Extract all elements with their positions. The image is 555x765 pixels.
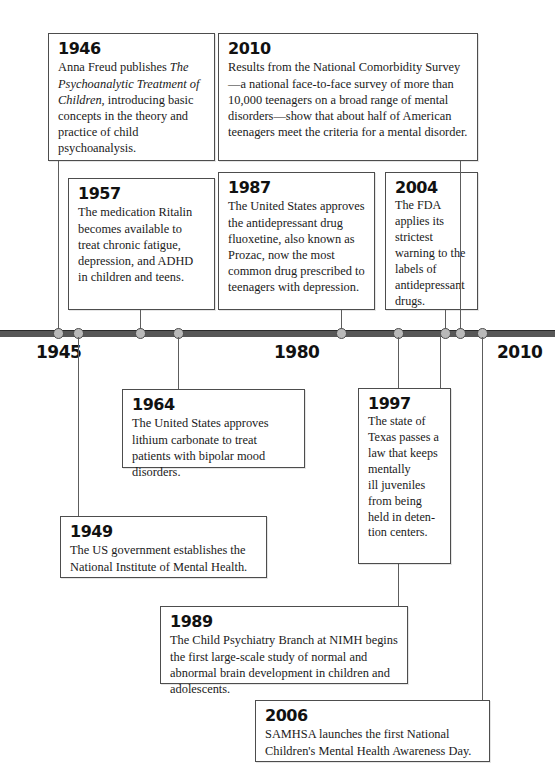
event-text-2004: The FDA applies its strictest warning to… — [395, 198, 468, 309]
event-box-1987[interactable]: 1987 The United States approves the anti… — [218, 172, 375, 310]
timeline-infographic: 1946 Anna Freud publishes The Psychoanal… — [0, 0, 555, 765]
connector-2006 — [482, 337, 483, 700]
event-box-1949[interactable]: 1949 The US government establishes the N… — [60, 516, 267, 578]
event-year-1989: 1989 — [170, 613, 398, 631]
event-year-2006: 2006 — [265, 707, 480, 725]
event-box-1989[interactable]: 1989 The Child Psychiatry Branch at NIMH… — [160, 606, 408, 684]
connector-1946 — [58, 161, 59, 333]
connector-1949 — [78, 337, 79, 516]
axis-year-1945: 1945 — [36, 342, 81, 362]
axis-year-2010: 2010 — [497, 342, 542, 362]
event-year-1949: 1949 — [70, 523, 257, 541]
connector-2010 — [460, 161, 461, 333]
event-text-1987: The United States approves the antidepre… — [228, 198, 365, 295]
event-text-1949: The US government establishes the Nation… — [70, 542, 257, 574]
event-year-1957: 1957 — [78, 185, 205, 203]
event-text-1997: The state ofTexas passes alaw that keeps… — [368, 414, 441, 541]
event-text-1946-part1: Anna Freud publishes — [58, 60, 170, 74]
event-text-1989: The Child Psychiatry Branch at NIMH begi… — [170, 632, 398, 697]
event-text-2010: Results from the National Comorbidity Su… — [228, 59, 468, 140]
event-year-1946: 1946 — [58, 40, 205, 58]
event-year-1964: 1964 — [132, 396, 295, 414]
event-box-1997[interactable]: 1997 The state ofTexas passes alaw that … — [358, 388, 451, 564]
event-box-2006[interactable]: 2006 SAMHSA launches the first National … — [255, 700, 490, 762]
event-text-1946: Anna Freud publishes The Psychoanalytic … — [58, 59, 205, 156]
event-box-1964[interactable]: 1964 The United States approves lithium … — [122, 389, 305, 468]
axis-dot-1957[interactable] — [135, 328, 146, 339]
axis-dot-1946[interactable] — [53, 328, 64, 339]
axis-dot-1987[interactable] — [336, 328, 347, 339]
axis-year-1980: 1980 — [274, 342, 319, 362]
event-box-1957[interactable]: 1957 The medication Ritalin becomes avai… — [68, 178, 215, 310]
event-text-1964: The United States approves lithium carbo… — [132, 415, 295, 480]
axis-dot-2004[interactable] — [455, 328, 466, 339]
axis-dot-1997[interactable] — [440, 328, 451, 339]
event-box-2010[interactable]: 2010 Results from the National Comorbidi… — [218, 33, 478, 161]
event-year-2004: 2004 — [395, 179, 468, 197]
event-box-1946[interactable]: 1946 Anna Freud publishes The Psychoanal… — [48, 33, 215, 161]
event-text-1957: The medication Ritalin becomes available… — [78, 204, 205, 285]
event-year-1997: 1997 — [368, 395, 441, 413]
event-box-2004[interactable]: 2004 The FDA applies its strictest warni… — [385, 172, 478, 310]
connector-1964 — [178, 337, 179, 389]
event-year-2010: 2010 — [228, 40, 468, 58]
event-text-2006: SAMHSA launches the first National Child… — [265, 726, 480, 758]
event-year-1987: 1987 — [228, 179, 365, 197]
connector-1997 — [440, 337, 441, 388]
